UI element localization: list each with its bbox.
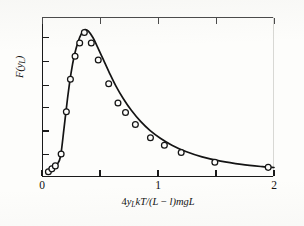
x-axis-label: 4yLkT/(L − l)mgL bbox=[42, 196, 274, 209]
y-axis-label: F(yL) bbox=[14, 56, 27, 78]
data-point bbox=[178, 150, 184, 156]
x-axis-tick-label-0: 0 bbox=[39, 179, 45, 191]
fitted-curve bbox=[47, 29, 274, 172]
y-axis-label-fn: F(y bbox=[14, 63, 25, 78]
figure-canvas: 012 F(yL) 4yLkT/(L − l)mgL bbox=[0, 0, 304, 226]
x-axis-label-tail: )mgL bbox=[172, 196, 194, 207]
chart-plot bbox=[42, 17, 274, 177]
x-axis-label-mid: kT/(L bbox=[136, 196, 159, 207]
data-point bbox=[77, 40, 83, 46]
x-axis-tick-label-2: 2 bbox=[271, 179, 277, 191]
data-point bbox=[123, 110, 129, 116]
data-point bbox=[52, 163, 58, 169]
data-point bbox=[115, 100, 121, 106]
plot-area: 012 bbox=[42, 17, 274, 177]
data-point bbox=[68, 76, 74, 82]
x-axis-label-minus: − bbox=[158, 196, 169, 207]
data-point bbox=[148, 135, 154, 141]
data-point bbox=[95, 57, 101, 63]
data-point bbox=[88, 40, 94, 46]
data-point bbox=[132, 122, 138, 128]
data-point bbox=[81, 30, 87, 36]
y-axis-label-close: ) bbox=[14, 56, 25, 60]
data-point-markers bbox=[45, 30, 271, 175]
data-point bbox=[58, 151, 64, 157]
data-point bbox=[265, 164, 271, 170]
y-axis-label-sub: L bbox=[18, 59, 27, 63]
data-point bbox=[72, 53, 78, 59]
data-point bbox=[161, 142, 167, 148]
data-point bbox=[63, 109, 69, 115]
data-point bbox=[106, 81, 112, 87]
x-axis-tick-label-1: 1 bbox=[155, 179, 161, 191]
data-point bbox=[212, 159, 218, 165]
